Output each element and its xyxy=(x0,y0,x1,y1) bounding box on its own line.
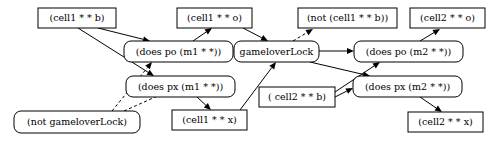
node-label: (cell2 * * x) xyxy=(418,116,472,127)
node-label: (cell1 * * o) xyxy=(187,12,242,23)
graph-node-cell2_x[interactable]: (cell2 * * x) xyxy=(408,112,483,132)
graph-edge xyxy=(197,97,211,110)
edge-line xyxy=(420,33,434,41)
node-label: gameloverLock xyxy=(240,46,314,57)
edge-arrowhead-icon xyxy=(435,106,442,112)
node-label: (does po (m1 * *)) xyxy=(136,46,222,57)
edge-arrowhead-icon xyxy=(145,62,152,69)
graph-node-not_gameloverlock[interactable]: (not gameloverLock) xyxy=(14,111,140,133)
edge-arrowhead-icon xyxy=(146,70,154,76)
graph-node-does_po_m1[interactable]: (does po (m1 * *)) xyxy=(124,41,233,62)
edge-line xyxy=(197,97,206,105)
graph-edge xyxy=(319,48,354,54)
nodes-layer: (cell1 * * b)(cell1 * * o)(not (cell1 * … xyxy=(14,8,485,133)
edge-line xyxy=(243,28,262,38)
graph-node-does_po_m2[interactable]: (does po (m2 * *)) xyxy=(354,41,463,62)
graph-edge xyxy=(243,28,268,41)
graph-node-does_px_m2[interactable]: (does px (m2 * *)) xyxy=(353,76,462,97)
graph-node-cell2_o[interactable]: (cell2 * * o) xyxy=(410,8,485,28)
edge-line xyxy=(98,28,143,39)
node-label: (does px (m1 * *)) xyxy=(138,81,223,92)
edge-line xyxy=(193,32,206,41)
graph-edge xyxy=(335,88,353,97)
diagram-canvas: (cell1 * * b)(cell1 * * o)(not (cell1 * … xyxy=(0,0,490,141)
edge-arrowhead-icon xyxy=(432,29,440,35)
edge-line xyxy=(310,62,363,74)
graph-node-cell1_o[interactable]: (cell1 * * o) xyxy=(177,8,252,28)
edge-line xyxy=(420,97,436,108)
graph-node-cell1_x[interactable]: (cell1 * * x) xyxy=(172,110,247,130)
edge-arrowhead-icon xyxy=(347,48,354,54)
graph-edge xyxy=(293,29,313,41)
edge-arrowhead-icon xyxy=(205,28,212,34)
edge-arrowhead-icon xyxy=(269,62,276,69)
node-label: (does px (m2 * *)) xyxy=(365,81,450,92)
edge-arrowhead-icon xyxy=(305,29,313,35)
edge-line xyxy=(293,33,307,41)
node-label: (cell1 * * b) xyxy=(49,12,104,23)
node-label: (does po (m2 * *)) xyxy=(366,46,452,57)
edge-line xyxy=(335,91,347,97)
graph-node-gameloverlock[interactable]: gameloverLock xyxy=(234,41,319,62)
graph-edge xyxy=(193,28,212,41)
graph-edge xyxy=(98,28,150,42)
node-label: (not (cell1 * * b)) xyxy=(307,12,388,23)
node-label: (not gameloverLock) xyxy=(27,116,127,127)
edge-arrowhead-icon xyxy=(373,62,380,68)
graph-node-cell2_b[interactable]: ( cell2 * * b) xyxy=(259,87,335,107)
graph-node-cell1_b[interactable]: (cell1 * * b) xyxy=(38,8,116,28)
graph-edge xyxy=(420,97,442,112)
node-label: ( cell2 * * b) xyxy=(268,91,326,102)
graph-node-does_px_m1[interactable]: (does px (m1 * *)) xyxy=(126,76,235,97)
graph-node-not_cell1_b[interactable]: (not (cell1 * * b)) xyxy=(298,8,397,28)
graph-svg: (cell1 * * b)(cell1 * * o)(not (cell1 * … xyxy=(0,0,490,141)
node-label: (cell2 * * o) xyxy=(420,12,475,23)
node-label: (cell1 * * x) xyxy=(182,114,236,125)
graph-edge xyxy=(420,29,440,41)
